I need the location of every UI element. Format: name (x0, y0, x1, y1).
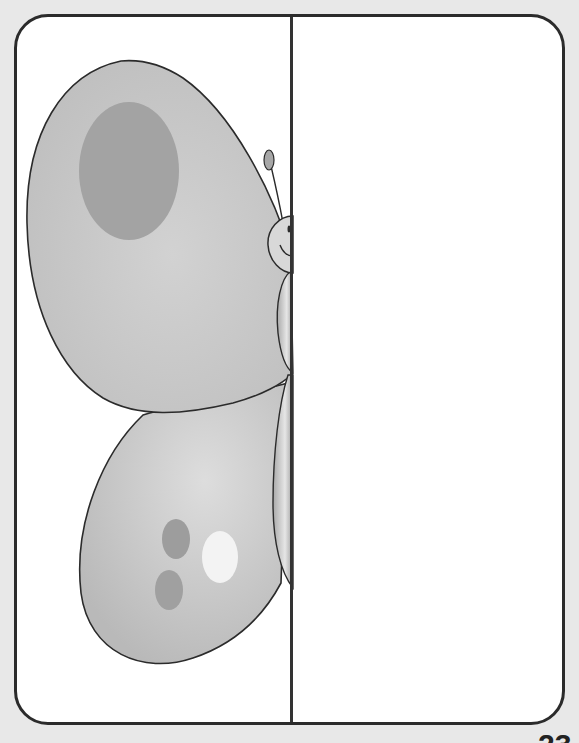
upper-wing (27, 61, 291, 413)
worksheet-frame (14, 14, 565, 725)
wing-spot-large (79, 102, 179, 240)
worksheet-page: 23 (0, 0, 579, 743)
page-number: 23 (538, 730, 571, 743)
wing-spot-dark (162, 519, 190, 559)
drawing-area-right[interactable] (293, 17, 562, 722)
wing-spot-light (202, 531, 238, 583)
lower-wing (80, 383, 288, 664)
wing-spot-dark (155, 570, 183, 610)
